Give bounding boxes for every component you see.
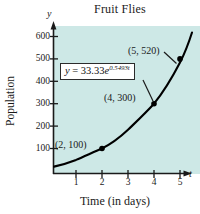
fruit-flies-chart-figure: Fruit Flies y t Population Time (in days… — [0, 0, 200, 214]
x-axis-arrowhead — [184, 171, 193, 177]
axis-lines — [51, 21, 192, 176]
data-point-markers — [99, 56, 183, 151]
y-axis-arrowhead — [51, 21, 57, 30]
exponential-growth-curve — [54, 33, 192, 167]
data-point-2-100 — [99, 146, 105, 152]
chart-vector-layer — [0, 0, 200, 214]
leader-line-equation — [143, 80, 153, 101]
data-point-4-300 — [151, 101, 157, 107]
data-point-5-520 — [177, 56, 183, 62]
leader-line-5-520 — [164, 52, 177, 64]
